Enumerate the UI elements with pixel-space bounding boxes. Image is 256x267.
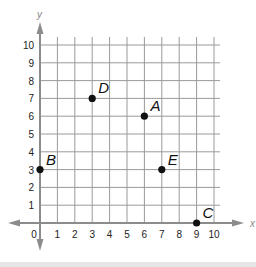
x-tick-label: 5 (124, 229, 130, 240)
data-points: ABCDE (36, 79, 213, 226)
point-marker-icon (158, 166, 165, 173)
y-tick-label: 4 (28, 147, 34, 158)
grid-lines (40, 37, 220, 223)
y-tick-label: 7 (28, 93, 34, 104)
y-tick-label: 3 (28, 165, 34, 176)
y-tick-label: 10 (23, 40, 35, 51)
point-label: B (46, 151, 56, 168)
point-label: D (98, 79, 109, 96)
y-tick-label: 6 (28, 111, 34, 122)
x-tick-label: 1 (55, 229, 61, 240)
x-tick-label: 0 (31, 229, 37, 240)
bottom-divider (0, 262, 256, 267)
y-tick-label: 1 (28, 200, 34, 211)
x-tick-label: 10 (208, 229, 220, 240)
x-tick-label: 6 (142, 229, 148, 240)
x-axis-label: x (249, 218, 256, 229)
x-tick-label: 2 (72, 229, 78, 240)
y-axis-up-arrow-icon (37, 22, 44, 34)
x-tick-label: 3 (89, 229, 95, 240)
x-tick-label: 7 (159, 229, 165, 240)
point-label: E (168, 151, 179, 168)
coordinate-plane: xy 01234567891012345678910 ABCDE (0, 0, 256, 262)
x-tick-label: 4 (107, 229, 113, 240)
point-label: C (203, 204, 214, 221)
point-label: A (149, 97, 160, 114)
point-marker-icon (193, 219, 200, 226)
point-marker-icon (36, 166, 43, 173)
tick-labels: 01234567891012345678910 (23, 40, 220, 240)
y-tick-label: 8 (28, 76, 34, 87)
y-axis-down-arrow-icon (37, 239, 44, 251)
x-axis-left-arrow-icon (8, 220, 20, 227)
x-tick-label: 8 (176, 229, 182, 240)
x-tick-label: 9 (194, 229, 200, 240)
y-axis-label: y (36, 9, 43, 20)
y-tick-label: 9 (28, 58, 34, 69)
point-marker-icon (141, 113, 148, 120)
y-tick-label: 5 (28, 129, 34, 140)
x-axis-right-arrow-icon (232, 220, 244, 227)
point-marker-icon (89, 95, 96, 102)
y-tick-label: 2 (28, 182, 34, 193)
